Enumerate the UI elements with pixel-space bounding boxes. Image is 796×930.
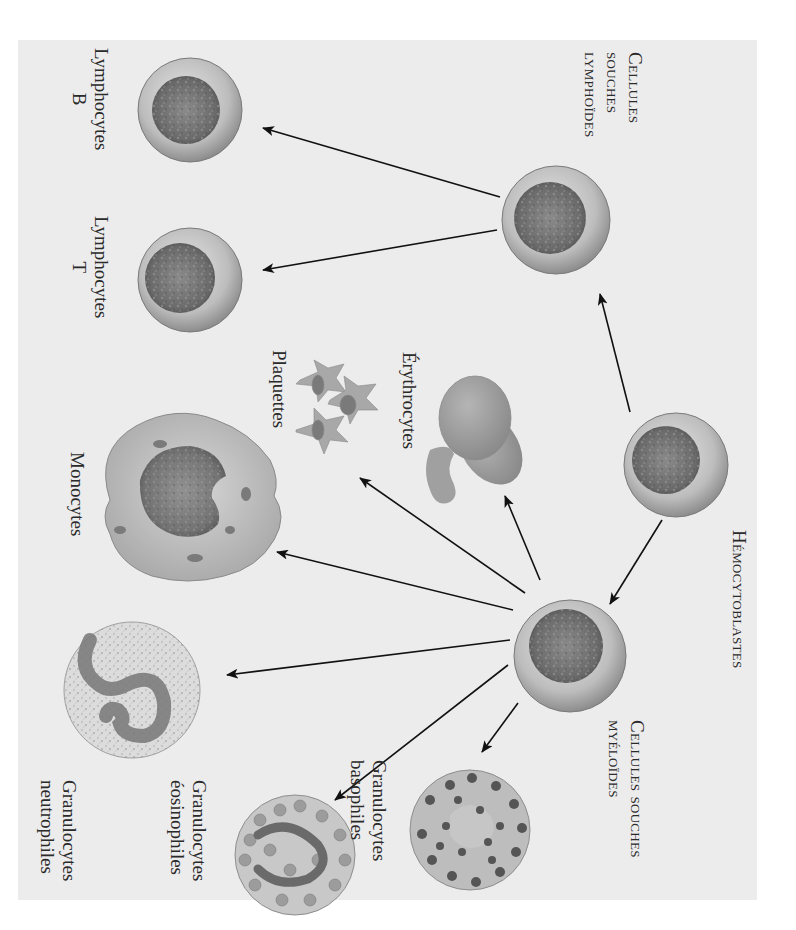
label-hemocytoblastes: Hémocytoblastes bbox=[728, 530, 750, 669]
arrow-hemo-to-lymphoide bbox=[600, 294, 630, 412]
arrow-lymphoide-to-lymph-b bbox=[263, 128, 500, 197]
diagram-canvas bbox=[0, 0, 796, 930]
label-monocytes: Monocytes bbox=[66, 452, 88, 536]
arrow-myeloide-to-erythro bbox=[505, 496, 540, 580]
lymphocyte-t-cell bbox=[138, 228, 242, 332]
label-erythrocytes: Érythrocytes bbox=[398, 352, 420, 449]
neutrophil-cell bbox=[64, 622, 200, 758]
label-granulocytes-eosinophiles: Granulocytes éosinophiles bbox=[166, 780, 210, 881]
myeloid-stem-cell bbox=[514, 600, 626, 712]
lymphoid-stem-cell bbox=[502, 166, 610, 274]
label-granulocytes-basophiles: Granulocytes basophiles bbox=[346, 760, 390, 861]
arrow-lymphoide-to-lymph-t bbox=[263, 230, 497, 270]
hemocytoblaste-cell bbox=[624, 413, 728, 517]
arrow-hemo-to-myeloide bbox=[610, 520, 662, 604]
label-cellules-souches-lymphoides: Cellules souches lymphoïdes bbox=[580, 52, 646, 137]
label-cellules-souches-myeloides: Cellules souches myéloïdes bbox=[604, 720, 648, 858]
erythrocytes bbox=[426, 376, 536, 504]
label-plaquettes: Plaquettes bbox=[268, 350, 290, 428]
label-lymphocytes-b: Lymphocytes B bbox=[68, 48, 112, 150]
monocyte-cell bbox=[105, 413, 281, 581]
arrow-myeloide-to-neutrophiles bbox=[227, 640, 510, 675]
label-granulocytes-neutrophiles: Granulocytes neutrophiles bbox=[36, 780, 80, 881]
arrow-myeloide-to-basophiles bbox=[482, 703, 518, 752]
lymphocyte-b-cell bbox=[138, 58, 242, 162]
basophil-cell bbox=[410, 770, 530, 890]
eosinophil-cell bbox=[235, 795, 355, 915]
platelets bbox=[296, 360, 378, 454]
label-lymphocytes-t: Lymphocytes T bbox=[68, 216, 112, 318]
